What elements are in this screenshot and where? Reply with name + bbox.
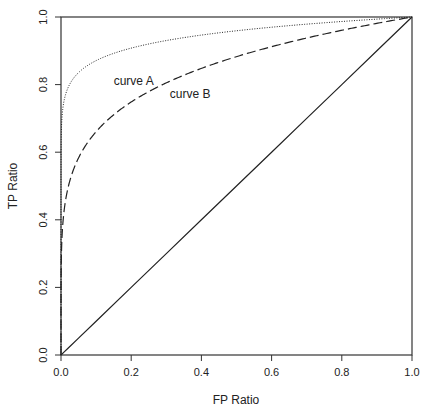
x-tick-label: 0.6 (264, 366, 279, 378)
roc-chart: 0.00.20.40.60.81.0 0.00.20.40.60.81.0 cu… (0, 0, 421, 410)
y-tick-label: 0.4 (37, 212, 49, 227)
annotations: curve Acurve B (114, 74, 211, 102)
y-tick-label: 0.0 (37, 347, 49, 362)
y-tick-label: 0.6 (37, 145, 49, 160)
y-axis-label: TP Ratio (6, 162, 20, 209)
x-axis: 0.00.20.40.60.81.0 (53, 355, 419, 378)
x-axis-label: FP Ratio (213, 393, 260, 407)
x-tick-label: 0.8 (334, 366, 349, 378)
plot-series (61, 17, 412, 355)
x-tick-label: 1.0 (404, 366, 419, 378)
y-tick-label: 1.0 (37, 9, 49, 24)
x-tick-label: 0.2 (124, 366, 139, 378)
y-tick-label: 0.2 (37, 280, 49, 295)
chance-diagonal-line (61, 17, 412, 355)
annotation-label: curve B (170, 87, 211, 101)
x-tick-label: 0.4 (194, 366, 209, 378)
annotation-label: curve A (114, 74, 154, 88)
x-tick-label: 0.0 (53, 366, 68, 378)
y-axis: 0.00.20.40.60.81.0 (37, 9, 61, 362)
y-tick-label: 0.8 (37, 77, 49, 92)
